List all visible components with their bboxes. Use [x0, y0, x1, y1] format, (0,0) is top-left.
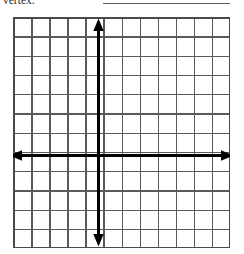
- coordinate-grid[interactable]: [13, 17, 230, 248]
- coordinate-plane-svg: [13, 17, 230, 248]
- answer-blank-line[interactable]: [103, 3, 230, 4]
- worksheet-header: vertex.: [0, 0, 244, 14]
- prompt-text: vertex.: [3, 0, 35, 6]
